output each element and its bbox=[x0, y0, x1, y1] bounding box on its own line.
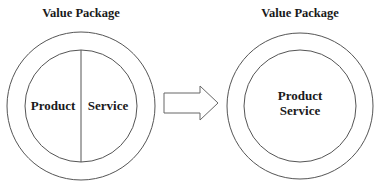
left-title: Value Package bbox=[42, 6, 120, 20]
left-value-package: Value Package Product Service bbox=[7, 6, 155, 180]
value-package-diagram: Value Package Product Service Value Pack… bbox=[0, 0, 380, 191]
right-product-label: Product bbox=[278, 88, 323, 103]
right-arrow-icon bbox=[164, 86, 218, 120]
right-value-package: Value Package Product Service bbox=[227, 6, 373, 179]
right-title: Value Package bbox=[261, 6, 339, 20]
left-service-label: Service bbox=[88, 98, 129, 113]
left-product-label: Product bbox=[31, 98, 76, 113]
right-service-label: Service bbox=[280, 103, 321, 118]
